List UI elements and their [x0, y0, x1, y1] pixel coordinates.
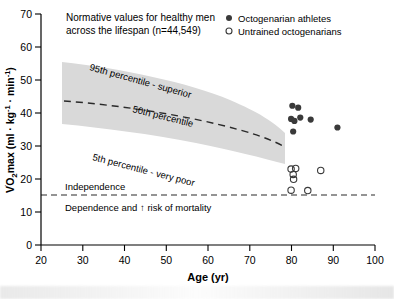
data-point-athlete	[290, 128, 296, 134]
dependence-annotation: Dependence and ↑ risk of mortality	[65, 202, 212, 213]
vo2max-scatter-figure: 70 60 50 40 30 20 10 0 20 30 40 50 60	[0, 0, 394, 299]
x-tick-label: 60	[202, 254, 214, 266]
data-point-athlete	[297, 115, 303, 121]
y-tick-label: 70	[20, 8, 32, 20]
data-point-athlete	[334, 124, 340, 130]
data-point-athlete	[308, 117, 314, 123]
x-tick-label: 50	[160, 254, 172, 266]
chart-legend: Octogenarian athletes Untrained octogena…	[226, 13, 342, 37]
data-point-athlete	[295, 105, 301, 111]
y-tick-label: 0	[26, 239, 32, 251]
series-octogenarian-athletes	[288, 103, 341, 135]
legend-open-circle-icon	[226, 28, 232, 34]
data-point-untrained	[318, 167, 324, 173]
y-tick-label: 40	[20, 107, 32, 119]
y-tick-label: 30	[20, 140, 32, 152]
x-axis-tick-labels: 20 30 40 50 60 70 80 90 100	[35, 254, 384, 266]
legend-label-athletes: Octogenarian athletes	[238, 13, 331, 24]
independence-annotation: Independence	[65, 181, 125, 192]
data-point-untrained	[305, 187, 311, 193]
x-tick-label: 70	[244, 254, 256, 266]
y-tick-label: 10	[20, 206, 32, 218]
data-point-athlete	[289, 103, 295, 109]
x-tick-label: 90	[327, 254, 339, 266]
page-scan-artifact	[0, 286, 394, 299]
x-axis-title: Age (yr)	[187, 271, 229, 283]
x-tick-label: 20	[35, 254, 47, 266]
y-tick-label: 50	[20, 74, 32, 86]
svg-text:V̇O2max (ml · kg-1 · min-1): V̇O2max (ml · kg-1 · min-1)	[3, 67, 19, 193]
x-tick-label: 40	[119, 254, 131, 266]
y-tick-label: 60	[20, 41, 32, 53]
x-axis-ticks	[41, 245, 375, 251]
legend-filled-circle-icon	[226, 15, 232, 21]
chart-caption-line-2: across the lifespan (n=44,549)	[66, 25, 201, 36]
y-axis-title: V̇O2max (ml · kg-1 · min-1)	[3, 67, 19, 193]
chart-svg: 70 60 50 40 30 20 10 0 20 30 40 50 60	[0, 0, 394, 299]
y-axis-ticks	[35, 14, 41, 245]
chart-caption-line-1: Normative values for healthy men	[66, 12, 215, 23]
legend-label-untrained: Untrained octogenarians	[238, 26, 342, 37]
x-tick-label: 30	[77, 254, 89, 266]
series-untrained-octogenarians	[288, 165, 324, 194]
y-axis-tick-labels: 70 60 50 40 30 20 10 0	[20, 8, 32, 251]
x-tick-label: 100	[366, 254, 384, 266]
x-tick-label: 80	[286, 254, 298, 266]
data-point-untrained	[288, 187, 294, 193]
y-tick-label: 20	[20, 173, 32, 185]
data-point-athlete	[291, 118, 297, 124]
